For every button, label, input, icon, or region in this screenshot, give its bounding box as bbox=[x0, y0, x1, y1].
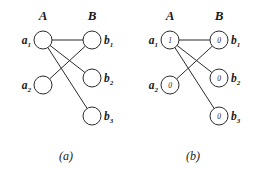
node-value-b2: 0 bbox=[217, 74, 221, 83]
node-a2: 0a2 bbox=[149, 76, 179, 94]
node-label-subscript-a1: 1 bbox=[28, 41, 32, 49]
node-label-b3: b3 bbox=[231, 110, 241, 125]
edge-a2-b1 bbox=[177, 46, 213, 79]
node-label-subscript-b3: 3 bbox=[236, 117, 241, 125]
node-b3: 0b3 bbox=[210, 107, 241, 125]
node-label-b2: b2 bbox=[104, 72, 114, 87]
node-b3: b3 bbox=[83, 107, 114, 125]
node-label-b3: b3 bbox=[104, 110, 114, 125]
node-b1: b1 bbox=[83, 31, 113, 49]
node-circle-b1 bbox=[83, 31, 101, 49]
node-b2: 0b2 bbox=[210, 69, 241, 87]
node-label-subscript-a2: 2 bbox=[154, 86, 159, 94]
node-label-b1: b1 bbox=[231, 34, 240, 49]
column-header-right: B bbox=[214, 8, 224, 23]
node-label-a2: a2 bbox=[149, 79, 159, 94]
node-label-subscript-b1: 1 bbox=[237, 41, 241, 49]
node-circle-a2 bbox=[34, 76, 52, 94]
node-circle-b2 bbox=[83, 69, 101, 87]
node-b1: 0b1 bbox=[210, 31, 240, 49]
node-label-a2: a2 bbox=[22, 79, 32, 94]
node-label-b2: b2 bbox=[231, 72, 241, 87]
node-label-subscript-b3: 3 bbox=[109, 117, 114, 125]
edge-a1-b3 bbox=[48, 48, 87, 109]
diagram-panel-a: ABa1a2b1b2b3(a) bbox=[0, 0, 127, 171]
node-label-subscript-b2: 2 bbox=[109, 79, 114, 87]
panel-caption-b: (b) bbox=[186, 149, 200, 163]
node-label-subscript-b1: 1 bbox=[110, 41, 114, 49]
node-label-b1: b1 bbox=[104, 34, 113, 49]
node-a1: a1 bbox=[22, 31, 52, 49]
node-value-a1: 1 bbox=[168, 36, 172, 45]
node-label-subscript-a2: 2 bbox=[27, 86, 32, 94]
diagram-panel-b: AB1a10a20b10b20b3(b) bbox=[127, 0, 254, 171]
node-a2: a2 bbox=[22, 76, 52, 94]
node-b2: b2 bbox=[83, 69, 114, 87]
node-label-a1: a1 bbox=[22, 34, 31, 49]
node-circle-b3 bbox=[83, 107, 101, 125]
node-value-b1: 0 bbox=[217, 36, 221, 45]
node-label-subscript-b2: 2 bbox=[236, 79, 241, 87]
column-header-left: A bbox=[165, 8, 175, 23]
bipartite-graph-figure: ABa1a2b1b2b3(a)AB1a10a20b10b20b3(b) bbox=[0, 0, 254, 171]
panel-b-canvas: AB1a10a20b10b20b3(b) bbox=[127, 0, 254, 171]
node-label-subscript-a1: 1 bbox=[155, 41, 159, 49]
column-header-right: B bbox=[87, 8, 97, 23]
node-value-a2: 0 bbox=[168, 81, 172, 90]
node-a1: 1a1 bbox=[149, 31, 179, 49]
column-header-left: A bbox=[38, 8, 48, 23]
panel-caption-a: (a) bbox=[59, 149, 73, 163]
edge-a2-b1 bbox=[50, 46, 86, 79]
node-label-a1: a1 bbox=[149, 34, 158, 49]
node-value-b3: 0 bbox=[217, 112, 221, 121]
node-circle-a1 bbox=[34, 31, 52, 49]
edge-a1-b3 bbox=[175, 48, 214, 109]
panel-a-canvas: ABa1a2b1b2b3(a) bbox=[0, 0, 127, 171]
